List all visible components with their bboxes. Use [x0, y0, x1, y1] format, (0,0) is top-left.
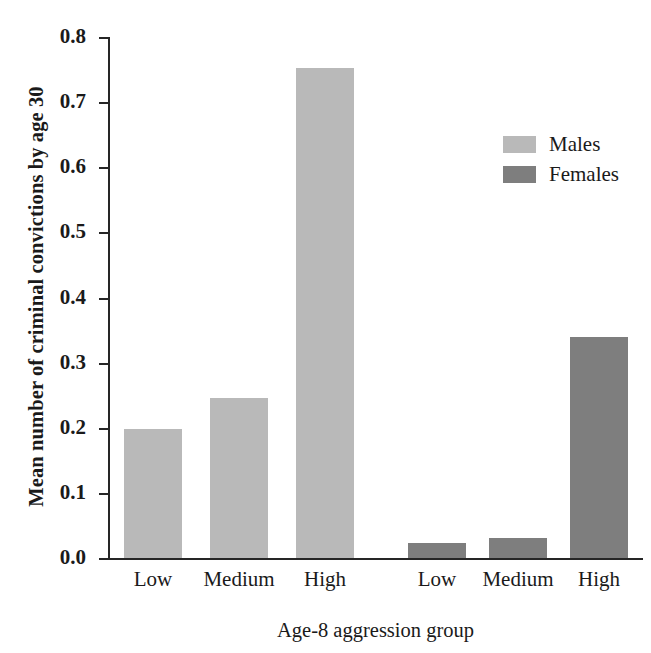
y-axis-title: Mean number of criminal convictions by a… [25, 37, 48, 557]
males-swatch [503, 136, 536, 153]
y-axis-tick: 0.1 [99, 493, 108, 495]
legend-item: Females [503, 159, 619, 189]
x-axis-tick-label: High [578, 567, 620, 592]
plot-area: 0.00.10.20.30.40.50.60.70.8 LowMediumHig… [108, 37, 643, 558]
females-swatch [503, 166, 536, 183]
y-axis-tick-label: 0.5 [60, 219, 86, 244]
y-axis-line [108, 37, 110, 558]
legend-item-label: Females [549, 162, 619, 187]
y-axis-tick-label: 0.4 [60, 284, 86, 309]
bar-males-low [124, 429, 182, 558]
bar-males-medium [210, 398, 268, 558]
y-axis-tick: 0.3 [99, 363, 108, 365]
x-axis-line [108, 558, 643, 560]
x-axis-tick-label: Low [418, 567, 457, 592]
y-axis-tick-label: 0.8 [60, 24, 86, 49]
x-axis-title: Age-8 aggression group [108, 619, 643, 642]
x-axis-tick-label: Low [134, 567, 173, 592]
bar-chart: Mean number of criminal convictions by a… [0, 0, 651, 653]
y-axis-tick-label: 0.2 [60, 415, 86, 440]
y-axis-tick: 0.4 [99, 298, 108, 300]
y-axis-tick: 0.0 [99, 558, 108, 560]
bar-females-medium [489, 538, 547, 558]
y-axis-tick: 0.7 [99, 102, 108, 104]
x-axis-tick-label: Medium [482, 567, 553, 592]
y-axis-tick: 0.6 [99, 167, 108, 169]
y-axis-tick: 0.5 [99, 232, 108, 234]
bar-females-high [570, 337, 628, 558]
legend-item-label: Males [549, 132, 600, 157]
y-axis-tick-label: 0.1 [60, 480, 86, 505]
y-axis-tick: 0.2 [99, 428, 108, 430]
bar-females-low [408, 543, 466, 558]
y-axis-tick-label: 0.0 [60, 545, 86, 570]
x-axis-tick-label: Medium [203, 567, 274, 592]
y-axis-tick-label: 0.6 [60, 154, 86, 179]
y-axis-tick-label: 0.3 [60, 349, 86, 374]
x-axis-tick-label: High [304, 567, 346, 592]
legend-item: Males [503, 129, 619, 159]
bar-males-high [296, 68, 354, 558]
y-axis-tick: 0.8 [99, 37, 108, 39]
y-axis-tick-label: 0.7 [60, 89, 86, 114]
chart-legend: MalesFemales [503, 129, 619, 189]
